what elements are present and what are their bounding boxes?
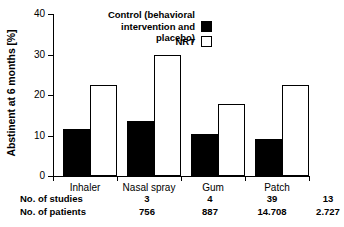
bar-nrt-patch <box>282 85 309 177</box>
annotation-patients-patch: 2.727 <box>296 205 344 218</box>
x-tick-2 <box>181 176 182 181</box>
annotation-label-studies: No. of studies <box>20 192 124 205</box>
legend: Control (behavioral intervention and pla… <box>96 9 212 53</box>
annotation-row-patients: No. of patients 756 887 14.708 2.727 <box>0 205 323 218</box>
annotation-patients-inhaler: 756 <box>122 205 172 218</box>
annotation-studies-inhaler: 3 <box>122 192 172 205</box>
annotation-studies-patch: 13 <box>296 192 344 205</box>
annotation-label-patients: No. of patients <box>20 205 124 218</box>
y-tick-label-40: 40 <box>21 8 45 20</box>
legend-swatch-nrt <box>201 36 212 47</box>
bar-control-gum <box>191 134 218 176</box>
bar-nrt-inhaler <box>90 85 117 176</box>
y-axis-title-text: Abstinent at 6 months [%] <box>4 29 16 156</box>
y-tick-label-20: 20 <box>21 89 45 101</box>
bar-control-nasal-spray <box>127 121 154 176</box>
legend-swatch-control <box>201 21 212 32</box>
y-axis-line <box>53 14 54 176</box>
y-tick-label-10: 10 <box>21 130 45 142</box>
x-tick-3 <box>245 176 246 181</box>
legend-item-nrt: NRT <box>96 36 212 48</box>
y-axis-title: Abstinent at 6 months [%] <box>0 0 20 186</box>
bar-nrt-gum <box>218 104 245 176</box>
bar-control-patch <box>255 139 282 176</box>
x-tick-0 <box>53 176 54 181</box>
y-tick-label-30: 30 <box>21 49 45 61</box>
x-tick-4 <box>309 176 310 181</box>
annotation-studies-gum: 39 <box>240 192 304 205</box>
annotation-row-studies: No. of studies 3 4 39 13 <box>0 192 323 205</box>
y-tick-label-0: 0 <box>21 170 45 182</box>
x-tick-1 <box>117 176 118 181</box>
bar-control-inhaler <box>63 129 90 176</box>
legend-label-nrt: NRT <box>175 36 195 48</box>
annotation-patients-nasal-spray: 887 <box>178 205 242 218</box>
annotation-patients-gum: 14.708 <box>240 205 304 218</box>
bar-nrt-nasal-spray <box>154 55 181 177</box>
annotation-table: No. of studies 3 4 39 13 No. of patients… <box>0 192 323 220</box>
annotation-studies-nasal-spray: 4 <box>178 192 242 205</box>
